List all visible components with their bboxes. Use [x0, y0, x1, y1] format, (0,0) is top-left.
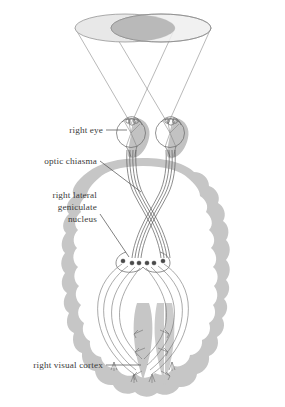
label-lgn-line-2: geniculate	[58, 202, 97, 212]
label-right-visual-cortex: right visual cortex	[33, 360, 103, 370]
leader-lgn	[100, 214, 129, 257]
visual-pathway-figure: right eye optic chiasma right lateral ge…	[0, 0, 285, 407]
lgn-right-nodes	[121, 259, 141, 265]
label-lgn-line-3: nucleus	[68, 214, 97, 224]
cone-lines-left-field	[75, 28, 175, 124]
cone-lines-right-field	[111, 28, 211, 124]
lgn-left-nodes	[145, 259, 165, 265]
label-optic-chiasma: optic chiasma	[44, 156, 97, 166]
label-right-lateral-geniculate-nucleus: right lateral geniculate nucleus	[52, 190, 97, 224]
visual-field-group	[75, 14, 211, 124]
label-right-eye: right eye	[69, 125, 103, 135]
visual-pathway-diagram: right eye optic chiasma right lateral ge…	[0, 0, 285, 407]
label-lgn-line-1: right lateral	[52, 190, 97, 200]
